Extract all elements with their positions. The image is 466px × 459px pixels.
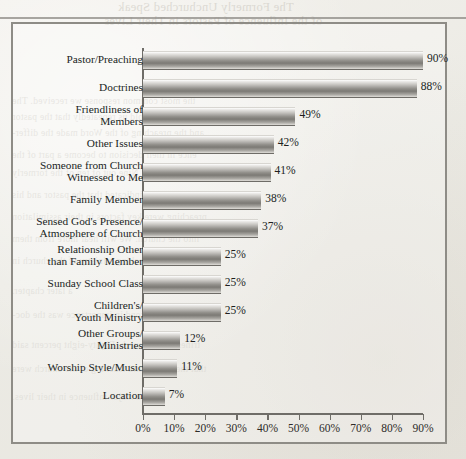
bar-value-label: 7% xyxy=(169,388,184,400)
x-axis-tick xyxy=(392,414,393,420)
figure-frame: Pastor/Preaching90%Doctrines88%Friendlin… xyxy=(11,22,447,444)
x-axis-tick xyxy=(205,414,206,420)
bar-value-label: 25% xyxy=(225,304,246,316)
bar-value-label: 88% xyxy=(421,80,442,92)
bar-row: Sensed God's Presence/Atmosphere of Chur… xyxy=(13,216,449,244)
bar-category-label: Friendliness ofMembers xyxy=(0,103,143,127)
bar xyxy=(143,107,295,126)
bar-value-label: 49% xyxy=(299,108,320,120)
bar-category-label: Doctrines xyxy=(0,81,143,93)
bar-row: Other Issues42% xyxy=(13,132,449,160)
x-axis-tick xyxy=(174,414,175,420)
bar xyxy=(143,247,221,266)
bar-category-label: Someone from ChurchWitnessed to Me xyxy=(0,159,143,183)
x-axis-tick xyxy=(423,414,424,420)
bar-value-label: 12% xyxy=(184,332,205,344)
x-axis-tick xyxy=(143,414,144,420)
bar-category-label: Other Issues xyxy=(0,137,143,149)
bar-value-label: 90% xyxy=(427,52,448,64)
bar xyxy=(143,387,165,406)
bar-value-label: 38% xyxy=(265,192,286,204)
bar-category-label: Relationship Otherthan Family Member xyxy=(0,243,143,267)
bar-category-label: Sunday School Class xyxy=(0,277,143,289)
bar-value-label: 41% xyxy=(275,164,296,176)
x-axis-tick-label: 50% xyxy=(288,422,309,434)
bar-row: Other Groups/Ministries12% xyxy=(13,328,449,356)
x-axis-tick-label: 70% xyxy=(350,422,371,434)
bar xyxy=(143,359,177,378)
x-axis-tick-label: 30% xyxy=(226,422,247,434)
bar-category-label: Sensed God's Presence/Atmosphere of Chur… xyxy=(0,215,143,239)
bar-row: Pastor/Preaching90% xyxy=(13,48,449,76)
x-axis-tick-label: 90% xyxy=(412,422,433,434)
bar-row: Doctrines88% xyxy=(13,76,449,104)
x-axis-tick-label: 40% xyxy=(257,422,278,434)
bar xyxy=(143,275,221,294)
bar-row: Sunday School Class25% xyxy=(13,272,449,300)
bar-category-label: Other Groups/Ministries xyxy=(0,327,143,351)
bar xyxy=(143,135,274,154)
page-top-rule xyxy=(0,17,466,19)
bar xyxy=(143,303,221,322)
x-axis-tick xyxy=(267,414,268,420)
bar-value-label: 11% xyxy=(181,360,202,372)
bar-row: Someone from ChurchWitnessed to Me41% xyxy=(13,160,449,188)
bar xyxy=(143,191,261,210)
bar-chart-plot-area: Pastor/Preaching90%Doctrines88%Friendlin… xyxy=(13,24,445,442)
x-axis-tick-label: 80% xyxy=(381,422,402,434)
x-axis-tick xyxy=(330,414,331,420)
bar-value-label: 25% xyxy=(225,276,246,288)
bar-category-label: Location xyxy=(0,389,143,401)
bar-category-label: Pastor/Preaching xyxy=(0,53,143,65)
x-axis-line xyxy=(142,413,423,415)
x-axis-tick xyxy=(361,414,362,420)
bar-value-label: 25% xyxy=(225,248,246,260)
bar xyxy=(143,79,417,98)
bar-row: Children's/Youth Ministry25% xyxy=(13,300,449,328)
bar-value-label: 42% xyxy=(278,136,299,148)
bar-row: Family Member38% xyxy=(13,188,449,216)
bar xyxy=(143,51,423,70)
bar-row: Friendliness ofMembers49% xyxy=(13,104,449,132)
x-axis-tick-label: 20% xyxy=(195,422,216,434)
bar-value-label: 37% xyxy=(262,220,283,232)
bar xyxy=(143,331,180,350)
bar-row: Worship Style/Music11% xyxy=(13,356,449,384)
bar-category-label: Children's/Youth Ministry xyxy=(0,299,143,323)
x-axis-tick-label: 0% xyxy=(135,422,150,434)
bar xyxy=(143,163,271,182)
x-axis-tick xyxy=(299,414,300,420)
bar-category-label: Family Member xyxy=(0,193,143,205)
x-axis-tick-label: 60% xyxy=(319,422,340,434)
bar-row: Location7% xyxy=(13,384,449,412)
bar xyxy=(143,219,258,238)
x-axis-tick-label: 10% xyxy=(164,422,185,434)
bar-row: Relationship Otherthan Family Member25% xyxy=(13,244,449,272)
bar-category-label: Worship Style/Music xyxy=(0,361,143,373)
x-axis-tick xyxy=(236,414,237,420)
